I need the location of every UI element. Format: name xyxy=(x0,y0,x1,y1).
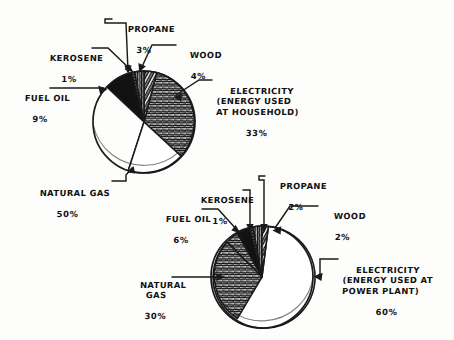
household-electricity-label: ELECTRICITY (ENERGY USED AT HOUSEHOLD) 3… xyxy=(215,75,301,159)
household-natural-gas-label: NATURAL GAS 50% xyxy=(25,177,111,240)
powerplant-electricity-label: ELECTRICITY (ENERGY USED AT POWER PLANT)… xyxy=(341,254,434,338)
powerplant-fuel-oil-label: FUEL OIL 6% xyxy=(151,203,212,266)
figure-sheet: PROPANE 3% KEROSENE 1% WOOD 4% FUEL OIL … xyxy=(0,0,454,340)
household-propane-label: PROPANE 3% xyxy=(113,13,176,76)
household-fuel-oil-label: FUEL OIL 9% xyxy=(10,82,71,145)
leader-propane-bottom xyxy=(259,176,265,229)
household-wood-label: WOOD 4% xyxy=(175,39,222,102)
powerplant-natural-gas-label: NATURAL GAS 30% xyxy=(125,269,187,340)
powerplant-propane-label: PROPANE 2% xyxy=(265,170,328,233)
